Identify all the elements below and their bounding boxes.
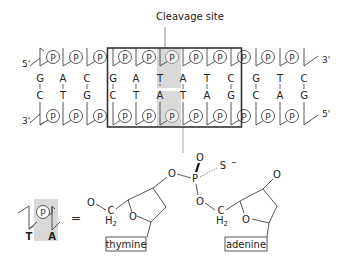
svg-text:H2: H2	[216, 215, 228, 228]
legend-unit: P T A =	[18, 199, 81, 242]
legend-base-t: T	[26, 231, 33, 242]
base: T	[179, 90, 187, 101]
svg-text:P: P	[169, 112, 175, 122]
svg-text:P: P	[217, 112, 223, 122]
equals-sign: =	[71, 211, 81, 225]
svg-text:P: P	[193, 112, 199, 122]
phosphate-circle: P	[262, 110, 275, 123]
svg-text:O: O	[168, 168, 176, 179]
label-5prime-top: 5'	[22, 59, 30, 69]
base: A	[157, 90, 164, 101]
svg-text:P: P	[122, 53, 128, 63]
svg-text:P: P	[50, 112, 56, 122]
svg-text:P: P	[97, 53, 103, 63]
phosphate-circle: P	[238, 51, 251, 64]
svg-text:O: O	[87, 197, 95, 208]
base: T	[132, 90, 140, 101]
base: T	[156, 73, 164, 84]
base: A	[60, 73, 67, 84]
svg-text:P: P	[73, 112, 79, 122]
base: G	[36, 73, 44, 84]
svg-text:P: P	[146, 112, 152, 122]
label-3prime-bottom: 3'	[22, 116, 30, 126]
phosphate-circle: P	[119, 110, 132, 123]
cleavage-site-label: Cleavage site	[156, 11, 224, 22]
base: A	[277, 90, 284, 101]
phosphate-circle: P	[94, 110, 107, 123]
phosphate-circle: P	[70, 110, 83, 123]
bottom-phosphates: P P P P P P P P P P P	[47, 110, 299, 123]
svg-text:O: O	[196, 152, 204, 163]
phosphate-circle: P	[214, 110, 227, 123]
svg-text:H2: H2	[105, 215, 117, 228]
phosphorothioate-linkage: O P O S – O	[168, 152, 236, 207]
adenine-nucleoside: C H2 O O adenine	[205, 169, 281, 251]
svg-text:P: P	[217, 53, 223, 63]
base: G	[252, 73, 260, 84]
base: T	[203, 73, 211, 84]
phosphate-circle: P	[47, 110, 60, 123]
adenine-label: adenine	[226, 239, 266, 250]
base: A	[180, 73, 187, 84]
base: T	[276, 73, 284, 84]
phosphate-circle-cleavage: P	[166, 110, 179, 123]
svg-text:P: P	[97, 112, 103, 122]
svg-text:P: P	[169, 53, 175, 63]
label-3prime-top: 3'	[322, 55, 330, 65]
svg-text:P: P	[146, 53, 152, 63]
base: G	[227, 90, 235, 101]
base: G	[109, 73, 117, 84]
phosphate-circle: P	[47, 51, 60, 64]
base: C	[253, 90, 260, 101]
svg-text:P: P	[50, 53, 56, 63]
phosphate-circle: P	[94, 51, 107, 64]
base: C	[110, 90, 117, 101]
top-phosphates: P P P P P P P P P P P	[47, 51, 299, 64]
diagram-canvas: Cleavage site 5' 3' 3' 5' P P P P P P P …	[0, 0, 348, 266]
base: A	[204, 90, 211, 101]
phosphate-circle: P	[143, 51, 156, 64]
svg-text:P: P	[289, 53, 295, 63]
phosphate-circle: P	[119, 51, 132, 64]
phosphate-circle: P	[190, 51, 203, 64]
base: A	[133, 73, 140, 84]
phosphate-circle-cleavage: P	[166, 51, 179, 64]
base: G	[83, 90, 91, 101]
svg-text:P: P	[192, 173, 198, 184]
svg-text:P: P	[40, 208, 46, 218]
thymine-nucleoside: O C H2 O thymine	[87, 177, 167, 251]
phosphate-circle: P	[286, 51, 299, 64]
svg-text:O: O	[273, 169, 281, 180]
phosphate-circle: P	[214, 51, 227, 64]
base: C	[301, 73, 308, 84]
phosphate-circle: P	[143, 110, 156, 123]
phosphate-circle: P	[286, 110, 299, 123]
phosphate-circle: P	[262, 51, 275, 64]
svg-text:P: P	[265, 112, 271, 122]
label-5prime-bottom: 5'	[322, 109, 330, 119]
svg-text:P: P	[122, 112, 128, 122]
svg-text:O: O	[129, 211, 137, 222]
svg-text:S: S	[220, 160, 226, 171]
legend-base-a: A	[48, 231, 56, 242]
svg-text:O: O	[242, 214, 250, 225]
base: G	[300, 90, 308, 101]
phosphate-circle: P	[70, 51, 83, 64]
base: C	[228, 73, 235, 84]
thymine-label: thymine	[105, 239, 146, 250]
svg-text:P: P	[193, 53, 199, 63]
phosphate-circle: P	[190, 110, 203, 123]
base: C	[84, 73, 91, 84]
base: T	[59, 90, 67, 101]
svg-text:–: –	[232, 156, 237, 167]
svg-text:P: P	[73, 53, 79, 63]
phosphate-circle: P	[238, 110, 251, 123]
svg-text:O: O	[196, 196, 204, 207]
base: C	[37, 90, 44, 101]
svg-text:P: P	[265, 53, 271, 63]
svg-text:P: P	[289, 112, 295, 122]
